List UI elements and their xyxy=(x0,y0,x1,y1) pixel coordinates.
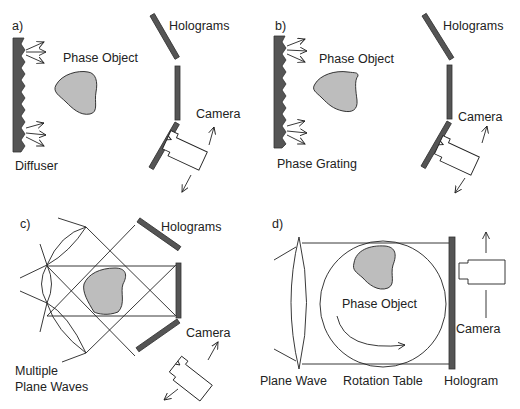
camera-motion-arrow-down xyxy=(455,178,465,193)
camera-motion-arrow-down xyxy=(164,389,178,400)
phase-object-label: Phase Object xyxy=(63,51,139,65)
camera-label: Camera xyxy=(196,107,241,121)
lens-ray-top xyxy=(274,247,296,260)
camera-motion-arrow-up xyxy=(482,126,487,143)
holograms-label: Holograms xyxy=(169,19,229,33)
phase-object-label: Phase Object xyxy=(319,52,395,66)
phase-object xyxy=(84,268,126,314)
camera-icon xyxy=(161,131,209,171)
camera-label: Camera xyxy=(456,322,501,336)
panel-a: a) Phase Object Holograms Camera Diffuse… xyxy=(12,14,241,193)
rotation-table-label: Rotation Table xyxy=(343,374,423,388)
camera-icon xyxy=(433,136,481,176)
panel-c: c) Holograms Camera xyxy=(15,217,231,401)
plane-waves-label: Plane Waves xyxy=(15,380,88,394)
scatter-arrows-bottom xyxy=(26,123,46,146)
panel-b-label: b) xyxy=(275,19,286,33)
camera-motion-arrow-up xyxy=(209,127,214,145)
hologram-plates xyxy=(136,218,181,352)
panel-c-label: c) xyxy=(20,217,30,231)
scatter-arrows-top xyxy=(26,42,46,63)
camera-label: Camera xyxy=(458,110,503,124)
phase-object xyxy=(314,72,358,112)
plane-wave-label: Plane Wave xyxy=(260,374,327,388)
panel-b: b) Phase Object Holograms Camera Phase G… xyxy=(274,13,503,193)
phase-object xyxy=(353,246,395,289)
phase-grating-label: Phase Grating xyxy=(277,157,357,171)
phase-object-label: Phase Object xyxy=(342,297,418,311)
camera-label: Camera xyxy=(186,326,231,340)
holography-setups-figure: a) Phase Object Holograms Camera Diffuse… xyxy=(0,0,520,409)
plane-wave-lens xyxy=(291,237,307,369)
panel-d: d) Phase Object Camera Plane Wave Rotati… xyxy=(260,217,505,388)
hologram-label: Hologram xyxy=(444,374,498,388)
phase-object xyxy=(55,72,97,115)
diffuser-plate xyxy=(13,38,25,152)
phase-grating-plate xyxy=(274,36,286,148)
multiple-label: Multiple xyxy=(15,364,58,378)
scatter-arrows-bottom xyxy=(287,121,307,144)
camera-icon xyxy=(459,260,505,284)
rotation-arrow xyxy=(337,316,405,346)
lens-ray-bottom xyxy=(274,349,296,361)
hologram-plate xyxy=(449,237,455,369)
lenses xyxy=(20,218,86,362)
camera-icon xyxy=(167,356,215,401)
camera-motion-arrow-down xyxy=(182,175,191,192)
scatter-arrows-top xyxy=(287,39,307,62)
holograms-label: Holograms xyxy=(443,19,503,33)
holograms-label: Holograms xyxy=(161,220,221,234)
camera-motion-arrow-up xyxy=(208,342,218,360)
diffuser-label: Diffuser xyxy=(15,159,58,173)
panel-a-label: a) xyxy=(12,19,23,33)
panel-d-label: d) xyxy=(272,217,283,231)
